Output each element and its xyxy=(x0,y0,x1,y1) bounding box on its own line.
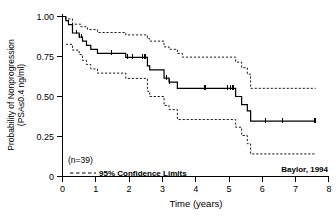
x-tick-label-7: 7 xyxy=(293,184,298,194)
kaplan-meier-plot: 1.00 0.75 0.50 0.25 0 0 1 2 3 4 5 6 xyxy=(0,0,336,224)
x-tick-label-6: 6 xyxy=(260,184,265,194)
x-axis-title: Time (years) xyxy=(170,198,223,209)
survival-curve-figure: 1.00 0.75 0.50 0.25 0 0 1 2 3 4 5 6 xyxy=(0,0,336,224)
x-tick-label-4: 4 xyxy=(193,184,198,194)
legend-label: 95% Confidence Limits xyxy=(99,169,187,178)
x-axis-tick-labels: 0 1 2 3 4 5 6 7 8 xyxy=(60,184,331,194)
y-tick-label-2: 0.75 xyxy=(36,52,54,62)
lower-confidence-limit-curve xyxy=(66,44,316,154)
x-tick-label-0: 0 xyxy=(60,184,65,194)
x-tick-label-8: 8 xyxy=(326,184,331,194)
censor-marks xyxy=(76,30,314,123)
y-axis-title-line2: (PSA≤0.4 ng/ml) xyxy=(16,64,26,126)
x-tick-label-2: 2 xyxy=(127,184,132,194)
y-tick-label-1: 1.00 xyxy=(36,12,54,22)
y-tick-label-5: 0 xyxy=(49,172,54,182)
x-tick-label-1: 1 xyxy=(93,184,98,194)
x-tick-label-5: 5 xyxy=(226,184,231,194)
y-tick-label-3: 0.50 xyxy=(36,92,54,102)
y-axis-tick-labels: 1.00 0.75 0.50 0.25 0 xyxy=(36,12,54,182)
x-tick-label-3: 3 xyxy=(160,184,165,194)
sample-size-label: (n=39) xyxy=(68,155,93,165)
curves-group xyxy=(63,17,316,154)
y-axis-title-line1: Probability of Nonprogression xyxy=(6,39,16,151)
y-axis-title: Probability of Nonprogression (PSA≤0.4 n… xyxy=(6,39,26,151)
source-note: Baylor, 1994 xyxy=(281,165,328,174)
y-axis-ticks xyxy=(57,17,63,177)
upper-confidence-limit-curve xyxy=(63,17,316,89)
y-tick-label-4: 0.25 xyxy=(36,132,54,142)
